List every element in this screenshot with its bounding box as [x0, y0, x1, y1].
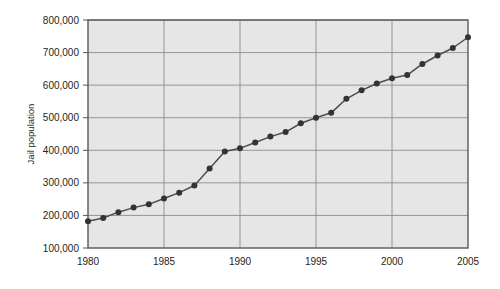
- data-point-marker: [359, 87, 365, 93]
- data-point-marker: [100, 215, 106, 221]
- data-point-marker: [374, 81, 380, 87]
- data-point-marker: [343, 96, 349, 102]
- y-tick-label: 300,000: [43, 177, 80, 188]
- data-point-marker: [222, 149, 228, 155]
- y-tick-label: 600,000: [43, 80, 80, 91]
- x-tick-label: 1985: [153, 256, 176, 267]
- data-point-marker: [85, 218, 91, 224]
- data-point-marker: [313, 115, 319, 121]
- data-point-marker: [237, 145, 243, 151]
- data-point-marker: [419, 61, 425, 67]
- x-tick-label: 1990: [229, 256, 252, 267]
- y-tick-label: 100,000: [43, 243, 80, 254]
- y-tick-label: 700,000: [43, 47, 80, 58]
- chart-figure: 100,000200,000300,000400,000500,000600,0…: [0, 0, 500, 289]
- x-tick-label: 2005: [457, 256, 480, 267]
- data-point-marker: [328, 110, 334, 116]
- data-point-marker: [161, 195, 167, 201]
- data-point-marker: [115, 209, 121, 215]
- x-tick-label: 2000: [381, 256, 404, 267]
- data-point-marker: [450, 45, 456, 51]
- data-point-marker: [267, 134, 273, 140]
- data-point-marker: [435, 53, 441, 59]
- x-tick-label: 1995: [305, 256, 328, 267]
- data-point-marker: [176, 190, 182, 196]
- data-point-marker: [131, 205, 137, 211]
- data-point-marker: [404, 72, 410, 78]
- line-chart: 100,000200,000300,000400,000500,000600,0…: [0, 0, 500, 289]
- y-tick-label: 800,000: [43, 15, 80, 26]
- data-point-marker: [146, 201, 152, 207]
- y-tick-label: 200,000: [43, 210, 80, 221]
- x-tick-label: 1980: [77, 256, 100, 267]
- data-point-marker: [298, 120, 304, 126]
- data-point-marker: [465, 34, 471, 40]
- data-point-marker: [283, 129, 289, 135]
- data-point-marker: [207, 166, 213, 172]
- y-tick-label: 500,000: [43, 112, 80, 123]
- y-axis-title: Jail population: [25, 104, 36, 165]
- y-tick-label: 400,000: [43, 145, 80, 156]
- data-point-marker: [389, 75, 395, 81]
- data-point-marker: [191, 182, 197, 188]
- data-point-marker: [252, 139, 258, 145]
